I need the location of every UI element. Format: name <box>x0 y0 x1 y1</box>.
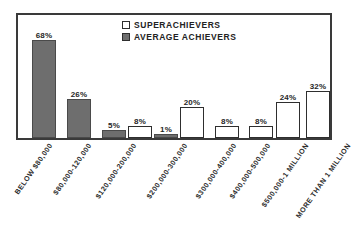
bar-below-80000-average: 68% <box>32 40 56 138</box>
x-axis-label-200000-300000: $200,000-300,000 <box>145 142 189 200</box>
plot-area: 68% 26% 5% 8% 1% 20% 8% 8% <box>18 15 330 138</box>
bar-120000-200000-average: 5% <box>102 130 126 138</box>
bar-value-label: 1% <box>160 126 172 134</box>
x-axis-label-below-80000: BELOW $80,000 <box>13 142 54 196</box>
bar-value-label: 8% <box>134 118 146 126</box>
bar-80000-120000-average: 26% <box>67 99 91 138</box>
chart-frame: 68% 26% 5% 8% 1% 20% 8% 8% <box>16 13 332 140</box>
legend-item-superachievers: SUPERACHIEVERS <box>122 21 236 30</box>
bar-200000-300000-super: 20% <box>180 107 204 138</box>
bar-120000-200000-super: 8% <box>128 126 152 138</box>
x-axis-labels: BELOW $80,000 $80,000-120,000 $120,000-2… <box>16 142 332 242</box>
legend-item-average-achievers: AVERAGE ACHIEVERS <box>122 33 236 42</box>
legend-item-label: SUPERACHIEVERS <box>134 21 221 30</box>
legend-item-label: AVERAGE ACHIEVERS <box>134 33 236 42</box>
bar-value-label: 68% <box>36 32 53 40</box>
chart-legend: SUPERACHIEVERS AVERAGE ACHIEVERS <box>122 21 236 41</box>
bar-value-label: 24% <box>280 94 297 102</box>
bar-300000-400000-super: 8% <box>215 126 239 138</box>
bar-200000-300000-average: 1% <box>154 134 178 138</box>
x-axis-label-120000-200000: $120,000-200,000 <box>94 142 138 200</box>
bar-value-label: 32% <box>310 83 327 91</box>
bar-value-label: 26% <box>71 91 88 99</box>
white-square-icon <box>122 21 130 29</box>
bar-value-label: 20% <box>184 99 201 107</box>
bar-value-label: 5% <box>108 122 120 130</box>
bar-value-label: 8% <box>255 118 267 126</box>
bar-400000-500000-super: 8% <box>249 126 273 138</box>
x-axis-label-80000-120000: $80,000-120,000 <box>52 142 93 196</box>
bar-value-label: 8% <box>221 118 233 126</box>
bar-500000-1million-super: 24% <box>276 102 300 138</box>
gray-square-icon <box>122 33 130 41</box>
bar-more-than-1million-super: 32% <box>306 91 330 138</box>
